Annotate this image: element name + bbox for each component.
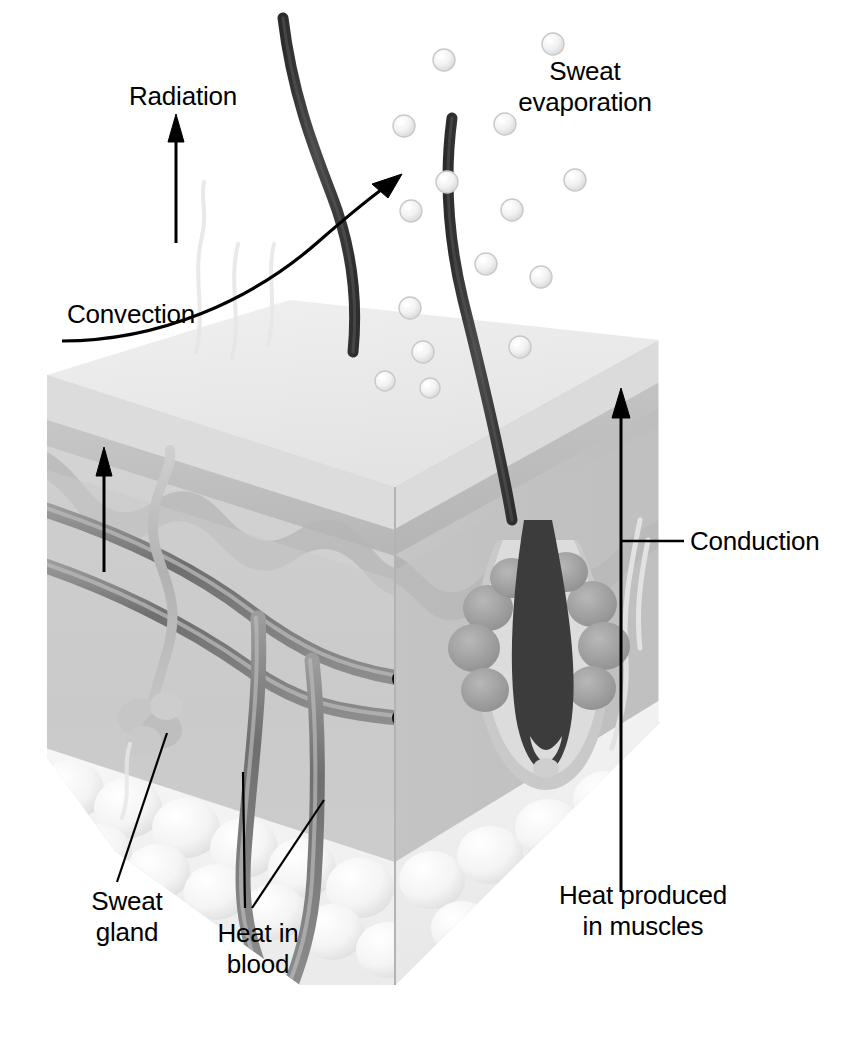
sweat-droplet (400, 200, 422, 222)
label-heat-in-blood-line1: Heat in (193, 919, 323, 949)
droplet-highlight (505, 203, 512, 210)
droplet-highlight (479, 257, 486, 264)
droplet-highlight (404, 204, 411, 211)
sweat-droplet (375, 371, 395, 391)
droplet-highlight (397, 119, 404, 126)
label-sweat-evaporation-line2: evaporation (497, 88, 673, 118)
label-sweat-evaporation-line1: Sweat (497, 57, 673, 87)
label-radiation: Radiation (129, 82, 237, 112)
label-heat-produced-line2: in muscles (543, 912, 743, 942)
droplet-highlight (424, 382, 430, 388)
label-conduction: Conduction (690, 527, 820, 557)
radiation-arrow (168, 114, 184, 243)
droplet-highlight (440, 175, 447, 182)
sweat-droplet (530, 266, 552, 288)
sweat-droplet (542, 33, 564, 55)
droplet-highlight (416, 345, 423, 352)
droplet-highlight (379, 375, 385, 381)
sweat-droplet (564, 169, 586, 191)
sweat-droplet (433, 49, 455, 71)
sweat-droplet (420, 378, 440, 398)
droplet-highlight (546, 37, 553, 44)
sweat-droplet (436, 171, 458, 193)
label-heat-produced-line1: Heat produced (543, 881, 743, 911)
sweat-droplet (509, 336, 531, 358)
label-convection: Convection (67, 300, 195, 330)
droplet-highlight (534, 270, 541, 277)
sweat-droplet (399, 297, 421, 319)
sweat-droplet (475, 253, 497, 275)
label-sweat-gland-line1: Sweat (68, 887, 186, 917)
droplet-highlight (437, 53, 444, 60)
droplet-highlight (568, 173, 575, 180)
droplet-highlight (403, 301, 410, 308)
sweat-droplet (393, 115, 415, 137)
droplet-highlight (513, 340, 520, 347)
sweat-droplet (501, 199, 523, 221)
figure-canvas: Radiation Convection Sweat evaporation C… (0, 0, 843, 1041)
label-heat-in-blood-line2: blood (193, 950, 323, 980)
label-sweat-gland-line2: gland (68, 918, 186, 948)
sweat-droplet (412, 341, 434, 363)
